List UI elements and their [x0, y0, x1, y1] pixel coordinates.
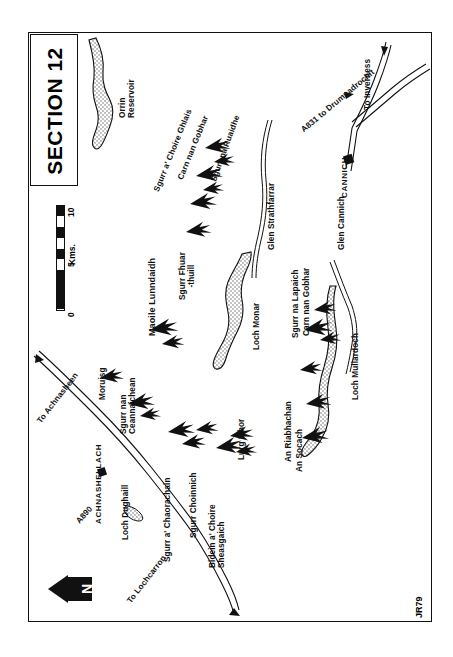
map-plate: SECTION 12 10 5 0 Kms. N JR79 Orrin Rese… [0, 0, 453, 657]
scale-bar-track [56, 205, 65, 311]
label-sgurr-choinnich: Sgurr Choinnich [190, 472, 199, 538]
label-glen-strathfarrar: Glen Strathfarrar [268, 183, 277, 250]
label-sgurr-a-chaorachain: Sgurr a' Chaorachain [164, 478, 173, 562]
label-glen-cannich: Glen Cannich [338, 196, 347, 250]
label-maoile-lunndaidh: Maoile Lunndaidh [148, 258, 157, 336]
label-lurg-mhor: Lurg Mhor [238, 419, 247, 460]
north-arrow-icon: N [46, 572, 102, 606]
north-arrow-label: N [76, 578, 98, 600]
scale-unit-label: Kms. [67, 244, 77, 265]
scale-tick-10: 10 [66, 208, 76, 217]
page-title: SECTION 12 [31, 35, 79, 187]
label-carn-nan-gobhar-south: Carn nan Gobhar [303, 268, 312, 336]
label-achnashellach: ACHNASHELLACH [95, 444, 103, 524]
label-bidein-a-choire-sheasgaich: Bidein a' Choire Sheasgaich [208, 504, 226, 568]
label-moruisg: Moruisg [99, 367, 108, 400]
label-cannich: CANNICH [341, 157, 349, 198]
label-loch-dughaill: Loch Dughaill [122, 485, 131, 540]
label-sgurr-na-lapaich: Sgurr na Lapaich [292, 270, 301, 338]
label-sgurr-nan-ceannaichean: Sgurr nan Ceannaichean [119, 377, 137, 434]
artist-signature: JR79 [414, 596, 424, 618]
label-loch-monar: Loch Monar [253, 303, 262, 350]
title-cartouche: SECTION 12 [30, 34, 78, 186]
label-loch-mullardoch: Loch Mullardoch [352, 333, 361, 400]
scale-tick-0: 0 [66, 312, 76, 317]
label-to-inverness: To Inverness [364, 59, 373, 110]
label-orrin-reservoir: Orrin Reservoir [118, 79, 136, 118]
label-an-socach: An Socach [296, 429, 305, 472]
label-an-riabhachan: An Riabhachan [285, 401, 294, 462]
label-sgurr-fhuar-thuill: Sgurr Fhuar -thuill [178, 252, 196, 300]
